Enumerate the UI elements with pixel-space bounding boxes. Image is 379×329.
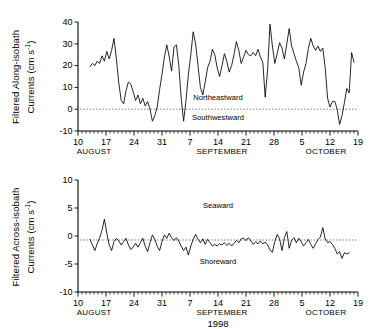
x-tick-label: 7: [187, 137, 192, 147]
x-tick-label: 14: [213, 137, 223, 147]
y-tick-label: -10: [59, 287, 72, 297]
x-tick-label: 17: [101, 298, 111, 308]
x-tick-label: 14: [213, 298, 223, 308]
data-series-line: [90, 219, 349, 258]
plot-across-isobath: -10-5051010172431714212851219AUGUSTSEPTE…: [0, 160, 379, 329]
plot-annotation-lower: Shoreward: [200, 257, 237, 266]
x-tick-label: 31: [157, 298, 167, 308]
x-month-label: OCTOBER: [306, 147, 347, 156]
x-tick-label: 5: [299, 137, 304, 147]
x-month-label: SEPTEMBER: [196, 147, 247, 156]
x-month-label: SEPTEMBER: [196, 308, 247, 317]
y-tick-label: 20: [62, 60, 72, 70]
x-tick-label: 5: [299, 298, 304, 308]
y-tick-label: -10: [59, 126, 72, 136]
x-tick-label: 10: [73, 298, 83, 308]
x-tick-label: 19: [353, 298, 363, 308]
y-tick-label: 0: [67, 104, 72, 114]
y-tick-label: 0: [67, 231, 72, 241]
x-tick-label: 12: [325, 137, 335, 147]
x-tick-label: 24: [129, 298, 139, 308]
y-tick-label: 10: [62, 82, 72, 92]
x-tick-label: 21: [241, 298, 251, 308]
x-tick-label: 19: [353, 137, 363, 147]
plot-along-isobath: -1001020304010172431714212851219AUGUSTSE…: [0, 0, 379, 160]
y-tick-label: 40: [62, 17, 72, 27]
panel-along-isobath: Filtered Along-isobath Currents (cm s-1)…: [0, 0, 379, 160]
y-tick-label: 10: [62, 175, 72, 185]
plot-annotation-upper: Northeastward: [193, 93, 242, 102]
x-tick-label: 17: [101, 137, 111, 147]
y-tick-label: 5: [67, 203, 72, 213]
figure-container: Filtered Along-isobath Currents (cm s-1)…: [0, 0, 379, 329]
x-month-label: AUGUST: [77, 147, 112, 156]
panel-across-isobath: Filtered Across-isobath Currents (cm s-1…: [0, 160, 379, 329]
x-tick-label: 24: [129, 137, 139, 147]
x-axis-year-label: 1998: [207, 318, 228, 329]
y-tick-label: 30: [62, 39, 72, 49]
x-tick-label: 12: [325, 298, 335, 308]
x-month-label: OCTOBER: [306, 308, 347, 317]
x-tick-label: 31: [157, 137, 167, 147]
plot-annotation-upper: Seaward: [203, 201, 233, 210]
x-tick-label: 7: [187, 298, 192, 308]
y-tick-label: -5: [64, 259, 72, 269]
x-tick-label: 28: [269, 298, 279, 308]
plot-annotation-lower: Southwestward: [192, 113, 244, 122]
x-tick-label: 28: [269, 137, 279, 147]
x-month-label: AUGUST: [77, 308, 112, 317]
x-tick-label: 21: [241, 137, 251, 147]
x-tick-label: 10: [73, 137, 83, 147]
